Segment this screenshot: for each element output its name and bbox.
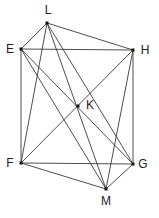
point-e [20, 48, 23, 51]
point-l [46, 22, 49, 25]
point-label-m: M [101, 194, 111, 208]
point-label-g: G [138, 157, 147, 171]
point-m [105, 188, 108, 191]
point-label-e: E [6, 42, 14, 56]
point-label-l: L [45, 3, 52, 17]
point-f [20, 162, 23, 165]
point-h [132, 49, 135, 52]
point-label-k: K [86, 98, 94, 112]
point-label-h: H [141, 43, 150, 57]
point-label-f: F [6, 156, 13, 170]
point-k [77, 105, 80, 108]
geometry-diagram: LEHKFGM [0, 0, 159, 218]
point-g [132, 163, 135, 166]
